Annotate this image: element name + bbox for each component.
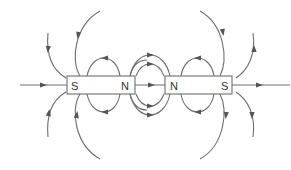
field-line	[236, 33, 254, 78]
arrow-icon	[194, 109, 201, 114]
magnetic-field-diagram: S N N S	[0, 0, 291, 170]
field-line	[48, 33, 66, 78]
arrow-icon	[249, 112, 254, 119]
field-line	[181, 94, 214, 112]
arrow-icon	[147, 112, 154, 117]
arrow-icon	[251, 45, 256, 52]
pole-label-s: S	[221, 80, 228, 92]
field-line	[75, 11, 100, 76]
arrow-icon	[101, 55, 108, 60]
arrow-icon	[147, 103, 154, 108]
arrow-icon	[256, 82, 263, 87]
pole-label-n: N	[170, 80, 178, 92]
arrow-icon	[101, 109, 108, 114]
arrow-icon	[147, 52, 154, 57]
arrow-icon	[147, 61, 154, 66]
field-line	[130, 94, 170, 115]
arrow-icon	[45, 46, 51, 53]
field-line	[75, 94, 100, 159]
arrow-icon	[40, 82, 47, 87]
field-line	[136, 64, 164, 76]
pole-label-s: S	[71, 80, 78, 92]
field-line	[136, 94, 164, 106]
field-line	[130, 55, 170, 76]
arrow-icon	[194, 55, 201, 60]
right-magnet: N S	[165, 76, 232, 94]
pole-label-n: N	[121, 80, 129, 92]
left-magnet: S N	[67, 76, 135, 94]
field-line	[200, 11, 224, 76]
field-line	[200, 94, 224, 159]
field-line	[87, 58, 120, 76]
field-line	[181, 58, 214, 76]
arrow-icon	[148, 82, 155, 87]
field-line	[87, 94, 120, 112]
